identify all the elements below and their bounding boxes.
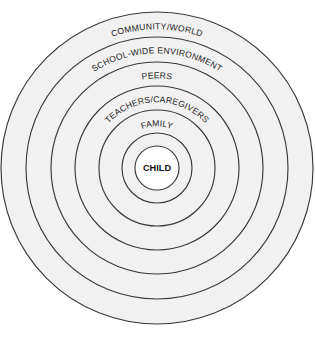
ring-label-child: CHILD: [143, 163, 171, 173]
concentric-circles-diagram: COMMUNITY/WORLDSCHOOL-WIDE ENVIRONMENTPE…: [0, 0, 315, 341]
diagram-root: COMMUNITY/WORLDSCHOOL-WIDE ENVIRONMENTPE…: [0, 0, 315, 341]
ring-label-peers: PEERS: [141, 70, 173, 81]
